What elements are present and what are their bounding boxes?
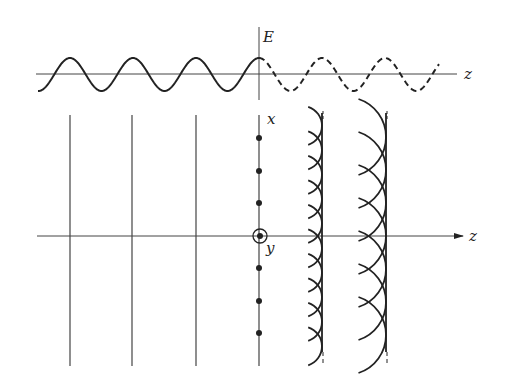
source-dot: [256, 298, 262, 304]
source-dot: [256, 135, 262, 141]
huygens-wavelet-arc: [308, 254, 322, 292]
huygens-wavelet-arc: [359, 231, 387, 307]
x-axis-label: x: [267, 110, 276, 128]
y-axis-label: y: [265, 239, 275, 257]
huygens-wavelet-arc: [308, 107, 322, 145]
huygens-wavelet-arc: [308, 229, 322, 267]
bottom-plot: x y z: [37, 99, 477, 373]
huygens-wavelet-arc: [359, 132, 387, 208]
huygens-wavelet-arc: [359, 264, 387, 340]
huygens-wavelet-arc: [359, 165, 387, 241]
source-dot: [256, 168, 262, 174]
huygens-wavelet-arc: [308, 205, 322, 243]
huygens-wavelet-arc: [308, 327, 322, 365]
huygens-wavelet-arc: [308, 278, 322, 316]
huygens-wavefront-diagram: E z x y z: [0, 0, 506, 387]
source-dot: [256, 330, 262, 336]
huygens-wavelet-arc: [308, 303, 322, 341]
huygens-wavelet-arc: [308, 131, 322, 169]
source-dot: [256, 265, 262, 271]
e-axis-label: E: [262, 28, 274, 46]
huygens-wavelet-arc: [308, 180, 322, 218]
source-dot: [256, 200, 262, 206]
top-plot: E z: [36, 27, 472, 100]
huygens-wavelet-arc: [308, 156, 322, 194]
huygens-wavelet-arc: [359, 297, 387, 373]
huygens-wavelet-arc: [359, 99, 387, 175]
z-axis-label: z: [468, 227, 477, 245]
top-z-axis-label: z: [463, 65, 472, 83]
incident-plane-wavefronts: [70, 115, 196, 366]
